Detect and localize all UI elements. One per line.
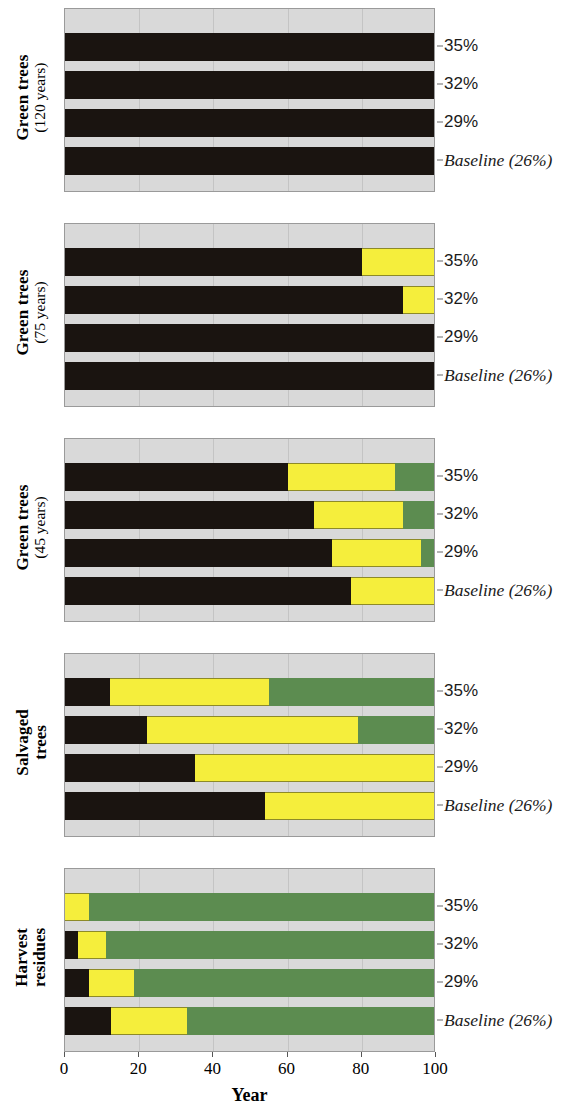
panel-category-label: Salvagedtrees — [0, 645, 64, 840]
bar-segment-yellow — [332, 539, 421, 567]
series-label: 29% — [444, 972, 478, 992]
panel-category-label-line1: Harvest — [14, 928, 32, 987]
bar-segment-black — [65, 362, 435, 390]
series-label-group: 35%32%29%Baseline (26%) — [437, 438, 581, 622]
axis-tick — [437, 476, 443, 477]
axis-tick — [437, 767, 443, 768]
axis-tick — [437, 261, 443, 262]
series-label: 32% — [444, 289, 478, 309]
x-axis-tick — [64, 1052, 65, 1057]
panel-category-label-line2: (120 years) — [33, 54, 50, 140]
bar-segment-green — [269, 678, 435, 706]
bar-segment-yellow — [89, 969, 134, 997]
bar-segment-yellow — [314, 501, 403, 529]
x-axis-tick — [435, 1052, 436, 1057]
bar-segment-black — [65, 792, 265, 820]
series-label-group: 35%32%29%Baseline (26%) — [437, 868, 581, 1052]
panel-category-label-line2: residues — [32, 928, 50, 987]
panel-category-label-line1: Green trees — [14, 484, 32, 570]
bar-group — [65, 224, 434, 406]
bar-segment-yellow — [362, 248, 435, 276]
bar-group — [65, 9, 434, 191]
bar — [65, 109, 435, 137]
bar-segment-black — [65, 109, 435, 137]
chart-panel: Harvestresidues35%32%29%Baseline (26%)02… — [0, 860, 581, 1105]
bar-segment-green — [134, 969, 435, 997]
series-label: Baseline (26%) — [444, 580, 552, 601]
bar-segment-yellow — [403, 286, 435, 314]
bar-segment-yellow — [351, 577, 435, 605]
axis-tick — [437, 691, 443, 692]
series-label: 29% — [444, 112, 478, 132]
series-label: Baseline (26%) — [444, 365, 552, 386]
series-label: 35% — [444, 681, 478, 701]
bar-segment-black — [65, 147, 435, 175]
bar-segment-green — [395, 463, 435, 491]
bar-segment-black — [65, 539, 332, 567]
panel-category-label-line2: (45 years) — [33, 484, 50, 570]
bar-segment-yellow — [147, 716, 358, 744]
series-label: Baseline (26%) — [444, 1010, 552, 1031]
axis-tick — [437, 299, 443, 300]
bar — [65, 362, 435, 390]
bar-segment-yellow — [110, 678, 270, 706]
x-axis-tick — [138, 1052, 139, 1057]
bar-segment-black — [65, 931, 78, 959]
series-label: 32% — [444, 719, 478, 739]
x-axis: 020406080100Year — [64, 1052, 435, 1105]
series-label-group: 35%32%29%Baseline (26%) — [437, 8, 581, 192]
bar-segment-green — [187, 1007, 435, 1035]
chart-figure: Green trees(120 years)35%32%29%Baseline … — [0, 0, 581, 1105]
bar-segment-black — [65, 501, 314, 529]
bar-group — [65, 654, 434, 836]
bar — [65, 678, 435, 706]
bar — [65, 147, 435, 175]
bar — [65, 33, 435, 61]
series-label: 35% — [444, 896, 478, 916]
x-axis-tick-label: 60 — [278, 1059, 295, 1079]
bar — [65, 577, 435, 605]
bar-segment-yellow — [195, 754, 435, 782]
bar-group — [65, 439, 434, 621]
axis-tick — [437, 1020, 443, 1021]
series-label: Baseline (26%) — [444, 795, 552, 816]
bar-segment-yellow — [265, 792, 435, 820]
panel-category-label: Green trees(75 years) — [0, 215, 64, 410]
bar — [65, 324, 435, 352]
x-axis-tick-label: 0 — [60, 1059, 69, 1079]
panel-category-label: Harvestresidues — [0, 860, 64, 1055]
series-label: 35% — [444, 36, 478, 56]
bar — [65, 754, 435, 782]
x-axis-tick — [212, 1052, 213, 1057]
bar-group — [65, 869, 434, 1051]
series-label: 35% — [444, 251, 478, 271]
axis-tick — [437, 375, 443, 376]
series-label: 29% — [444, 757, 478, 777]
x-axis-tick-label: 20 — [130, 1059, 147, 1079]
panel-category-label-line1: Salvaged — [14, 709, 32, 776]
axis-tick — [437, 46, 443, 47]
bar-segment-black — [65, 754, 195, 782]
series-label: 32% — [444, 74, 478, 94]
bar-segment-black — [65, 248, 362, 276]
plot-area — [64, 8, 435, 192]
panel-category-label-line1: Green trees — [14, 54, 32, 140]
panel-category-label-line2: trees — [32, 709, 50, 776]
bar — [65, 463, 435, 491]
bar-segment-black — [65, 71, 435, 99]
x-axis-title: Year — [64, 1085, 435, 1105]
bar-segment-yellow — [78, 931, 106, 959]
bar-segment-black — [65, 33, 435, 61]
bar — [65, 71, 435, 99]
bar — [65, 1007, 435, 1035]
panel-category-label-line2: (75 years) — [33, 269, 50, 355]
axis-tick — [437, 982, 443, 983]
axis-tick — [437, 906, 443, 907]
bar-segment-green — [106, 931, 435, 959]
axis-tick — [437, 514, 443, 515]
bar — [65, 792, 435, 820]
axis-tick — [437, 805, 443, 806]
series-label: Baseline (26%) — [444, 150, 552, 171]
plot-area — [64, 438, 435, 622]
chart-panel: Green trees(75 years)35%32%29%Baseline (… — [0, 215, 581, 430]
